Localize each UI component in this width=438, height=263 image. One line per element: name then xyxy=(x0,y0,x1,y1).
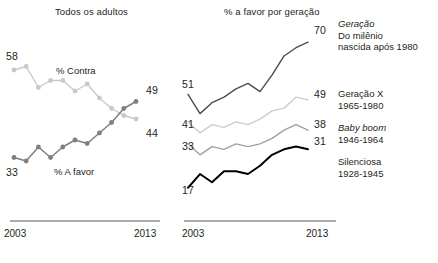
legend-item-silenciosa: Silenciosa 1928-1945 xyxy=(338,156,383,179)
value-label-contra-end: 44 xyxy=(146,127,158,139)
legend-line-1: Silenciosa xyxy=(338,156,383,168)
legend-line-1: Baby boom xyxy=(338,122,386,134)
axis-label-right-start: 2003 xyxy=(182,228,204,239)
legend-item-baby-boom: Baby boom 1946-1964 xyxy=(338,122,386,145)
panel-todos-os-adultos: Todos os adultos 58 44 33 49 % Contra % … xyxy=(0,0,180,263)
value-label-milenio-end: 70 xyxy=(314,24,326,36)
legend-line-1: Geração xyxy=(338,18,418,30)
value-label-silenciosa-start: 17 xyxy=(182,184,194,196)
value-label-babyboom-start: 33 xyxy=(182,140,194,152)
legend-line-2: 1965-1980 xyxy=(338,100,383,112)
value-label-afavor-end: 49 xyxy=(146,84,158,96)
axis-label-left-end: 2013 xyxy=(134,228,156,239)
legend-item-geracao-x: Geração X 1965-1980 xyxy=(338,88,383,111)
legend-line-2: Do milênio xyxy=(338,30,418,42)
panel-por-geracao: % a favor por geração 51 70 41 49 33 38 … xyxy=(180,0,438,263)
legend-item-geracao-do-milenio: Geração Do milênio nascida após 1980 xyxy=(338,18,418,53)
value-label-babyboom-end: 38 xyxy=(314,118,326,130)
value-label-afavor-start: 33 xyxy=(6,166,18,178)
series-label-contra: % Contra xyxy=(56,65,96,76)
value-label-geracaox-end: 49 xyxy=(314,88,326,100)
axis-label-left-start: 2003 xyxy=(4,228,26,239)
legend-line-2: 1928-1945 xyxy=(338,168,383,180)
legend-line-3: nascida após 1980 xyxy=(338,41,418,53)
value-label-silenciosa-end: 31 xyxy=(314,135,326,147)
series-label-a-favor: % A favor xyxy=(54,166,94,177)
value-label-geracaox-start: 41 xyxy=(182,118,194,130)
legend-line-2: 1946-1964 xyxy=(338,134,386,146)
legend-line-1: Geração X xyxy=(338,88,383,100)
axis-label-right-end: 2013 xyxy=(306,228,328,239)
value-label-contra-start: 58 xyxy=(6,50,18,62)
value-label-milenio-start: 51 xyxy=(182,78,194,90)
